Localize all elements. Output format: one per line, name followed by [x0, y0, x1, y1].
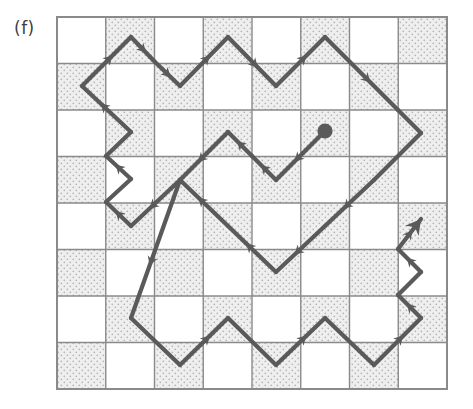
shaded-cell	[57, 343, 106, 390]
light-cell	[301, 343, 350, 390]
lattice-walk-diagram	[0, 0, 473, 409]
light-cell	[106, 64, 155, 111]
light-cell	[106, 343, 155, 390]
light-cell	[398, 343, 447, 390]
light-cell	[301, 64, 350, 111]
light-cell	[398, 64, 447, 111]
light-cell	[252, 17, 301, 64]
light-cell	[155, 296, 204, 343]
light-cell	[155, 110, 204, 157]
light-cell	[155, 17, 204, 64]
light-cell	[57, 296, 106, 343]
shaded-cell	[155, 250, 204, 297]
light-cell	[57, 17, 106, 64]
light-cell	[203, 64, 252, 111]
light-cell	[57, 203, 106, 250]
shaded-cell	[57, 250, 106, 297]
light-cell	[203, 250, 252, 297]
light-cell	[350, 110, 399, 157]
light-cell	[350, 203, 399, 250]
light-cell	[203, 343, 252, 390]
light-cell	[301, 250, 350, 297]
figure-panel: (f)	[0, 0, 473, 409]
light-cell	[203, 157, 252, 204]
light-cell	[57, 110, 106, 157]
shaded-cell	[398, 17, 447, 64]
light-cell	[252, 110, 301, 157]
shaded-cell	[57, 157, 106, 204]
light-cell	[350, 17, 399, 64]
light-cell	[398, 157, 447, 204]
light-cell	[252, 296, 301, 343]
start-point-dot	[317, 123, 332, 138]
light-cell	[350, 296, 399, 343]
light-cell	[301, 157, 350, 204]
light-cell	[252, 203, 301, 250]
shaded-cell	[350, 250, 399, 297]
